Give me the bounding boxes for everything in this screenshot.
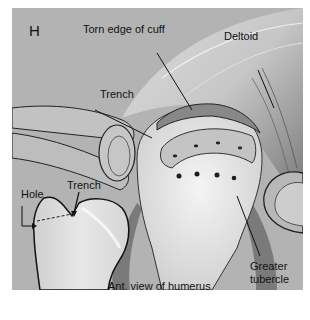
shoulder-illustration xyxy=(12,8,303,290)
label-ant-view-of-humerus: Ant. view of humerus xyxy=(108,280,211,290)
panel-letter: H xyxy=(29,22,40,39)
label-tubercle: tubercle xyxy=(250,273,289,285)
label-deltoid: Deltoid xyxy=(224,30,258,42)
label-greater: Greater xyxy=(250,260,287,272)
label-hole: Hole xyxy=(21,188,44,200)
label-torn-edge-of-cuff: Torn edge of cuff xyxy=(83,23,165,35)
figure-panel: H Torn edge of cuff Deltoid Trench Hole … xyxy=(12,8,303,290)
label-trench: Trench xyxy=(100,88,134,100)
label-trench-inset: Trench xyxy=(67,179,101,191)
